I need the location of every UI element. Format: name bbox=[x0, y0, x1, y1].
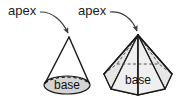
geometry-figure: base base apex bbox=[0, 0, 177, 99]
annotation-apex-right: apex bbox=[78, 3, 137, 31]
pyramid-shape: base bbox=[104, 35, 172, 95]
apex-arrow-right-icon bbox=[110, 12, 137, 31]
apex-arrow-left-icon bbox=[40, 12, 68, 33]
pyramid-base-label: base bbox=[125, 73, 151, 87]
figure-canvas: base base apex bbox=[0, 0, 177, 99]
annotation-apex-left: apex bbox=[8, 3, 68, 33]
cone-shape: base bbox=[44, 37, 90, 94]
apex-label-left: apex bbox=[8, 3, 37, 18]
cone-base-label: base bbox=[54, 78, 80, 92]
apex-label-right: apex bbox=[78, 3, 107, 18]
